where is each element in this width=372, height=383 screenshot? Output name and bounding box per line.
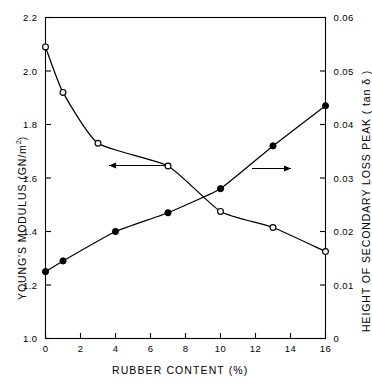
chart-plot-area: 02468101214161.01.21.41.61.82.02.200.010… bbox=[0, 0, 372, 383]
data-point-open bbox=[218, 209, 224, 215]
data-point-open bbox=[323, 249, 329, 255]
data-point-filled bbox=[42, 269, 48, 275]
series-modulus bbox=[43, 44, 329, 254]
y-axis-right-tick-label: 0 bbox=[334, 333, 340, 344]
series-curve bbox=[46, 47, 326, 252]
y-axis-left-tick-label: 1.0 bbox=[23, 333, 37, 344]
data-point-filled bbox=[322, 103, 328, 109]
x-axis-tick-label: 2 bbox=[78, 343, 84, 354]
data-point-open bbox=[43, 44, 49, 50]
y-axis-left-tick-label: 1.8 bbox=[23, 119, 37, 130]
x-axis-tick-label: 16 bbox=[320, 343, 331, 354]
y-axis-right-title: HEIGHT OF SECONDARY LOSS PEAK ( tan δ ) bbox=[360, 70, 372, 332]
y-axis-right-tick-label: 0.03 bbox=[334, 173, 354, 184]
left-axis-arrow-head bbox=[109, 162, 116, 168]
data-point-open bbox=[95, 140, 101, 146]
x-axis-tick-label: 14 bbox=[285, 343, 296, 354]
x-axis-tick-label: 12 bbox=[250, 343, 261, 354]
data-point-filled bbox=[165, 210, 171, 216]
y-axis-left-title: YOUNG'S MODULUS (GN/m2) bbox=[14, 136, 28, 300]
x-axis-tick-label: 0 bbox=[43, 343, 49, 354]
chart-figure: 02468101214161.01.21.41.61.82.02.200.010… bbox=[0, 0, 372, 383]
x-axis-tick-label: 10 bbox=[215, 343, 226, 354]
x-axis-tick-label: 4 bbox=[113, 343, 119, 354]
x-axis-title: RUBBER CONTENT (%) bbox=[112, 364, 248, 376]
y-axis-right-tick-label: 0.06 bbox=[334, 12, 354, 23]
data-point-open bbox=[270, 225, 276, 231]
data-point-open bbox=[60, 90, 66, 96]
y-axis-left-title-tail: ) bbox=[16, 136, 28, 140]
y-axis-right-tick-label: 0.01 bbox=[334, 280, 354, 291]
y-axis-left-tick-label: 2.0 bbox=[23, 66, 37, 77]
y-axis-right-tick-label: 0.05 bbox=[334, 66, 354, 77]
y-axis-right-tick-label: 0.02 bbox=[334, 226, 354, 237]
data-point-filled bbox=[217, 186, 223, 192]
y-axis-left-title-text: YOUNG'S MODULUS (GN/m bbox=[16, 144, 28, 300]
x-axis-tick-label: 8 bbox=[183, 343, 189, 354]
right-axis-arrow-head bbox=[284, 165, 291, 171]
y-axis-left-tick-label: 2.2 bbox=[23, 12, 37, 23]
x-axis-tick-label: 6 bbox=[148, 343, 154, 354]
data-point-filled bbox=[60, 258, 66, 264]
data-point-filled bbox=[270, 143, 276, 149]
plot-frame bbox=[46, 18, 326, 339]
left-axis-arrow bbox=[109, 162, 166, 168]
y-axis-left-title-exponent: 2 bbox=[14, 140, 23, 144]
right-axis-arrow bbox=[252, 165, 291, 171]
data-point-filled bbox=[112, 228, 118, 234]
y-axis-right-tick-label: 0.04 bbox=[334, 119, 354, 130]
